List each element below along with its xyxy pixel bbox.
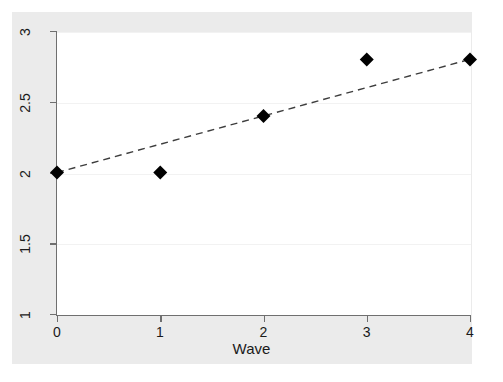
chart-figure: 3 2.5 2 1.5 1 0 1 2 3 4 Wave bbox=[0, 0, 503, 382]
data-point-marker bbox=[463, 52, 477, 66]
data-point-marker bbox=[360, 52, 374, 66]
data-point-marker bbox=[153, 166, 167, 180]
data-point-marker bbox=[257, 109, 271, 123]
data-layer bbox=[0, 0, 503, 382]
data-point-marker bbox=[50, 166, 64, 180]
